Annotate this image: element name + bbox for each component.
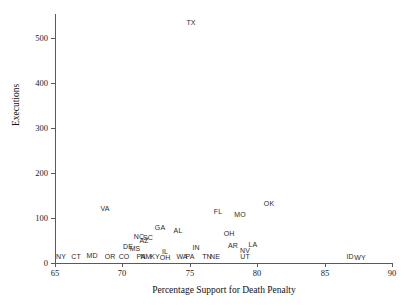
- y-tick-label-500: 500: [28, 33, 48, 43]
- data-point-wy: WY: [354, 254, 365, 261]
- scatter-chart: 65 70 75 80 85 90 0 100 200 300 400 500 …: [0, 0, 411, 306]
- data-point-al: AL: [174, 227, 183, 234]
- data-point-ga: GA: [155, 224, 165, 231]
- data-point-oh-zero: OH: [160, 254, 171, 261]
- x-tick-label-65: 65: [51, 268, 60, 278]
- x-tick-70: [122, 263, 123, 267]
- x-tick-label-70: 70: [118, 268, 127, 278]
- x-tick-label-75: 75: [186, 268, 195, 278]
- data-point-oh: OH: [224, 230, 235, 237]
- y-tick-label-300: 300: [28, 123, 48, 133]
- y-tick-label-100: 100: [28, 213, 48, 223]
- data-point-pa-zero: PA: [185, 253, 194, 260]
- y-tick-300: [51, 128, 55, 129]
- y-axis-line: [55, 14, 56, 263]
- data-point-ar: AR: [228, 242, 238, 249]
- x-tick-label-85: 85: [321, 268, 330, 278]
- data-point-fl: FL: [214, 208, 222, 215]
- y-tick-200: [51, 173, 55, 174]
- data-point-va: VA: [100, 205, 109, 212]
- x-tick-90: [392, 263, 393, 267]
- x-tick-65: [55, 263, 56, 267]
- data-point-or: OR: [105, 253, 116, 260]
- x-tick-80: [257, 263, 258, 267]
- y-tick-label-200: 200: [28, 168, 48, 178]
- x-axis-line: [55, 263, 393, 264]
- data-point-ky: KY: [150, 253, 160, 260]
- y-tick-label-0: 0: [28, 258, 48, 268]
- data-point-md: MD: [86, 252, 97, 259]
- x-tick-75: [190, 263, 191, 267]
- data-point-co: CO: [119, 253, 130, 260]
- data-point-ny: NY: [56, 253, 66, 260]
- x-tick-label-80: 80: [253, 268, 262, 278]
- x-tick-85: [325, 263, 326, 267]
- data-point-tx: TX: [186, 19, 195, 26]
- data-point-ut: UT: [240, 253, 250, 260]
- data-point-in: IN: [192, 244, 199, 251]
- y-tick-100: [51, 218, 55, 219]
- y-tick-0: [51, 263, 55, 264]
- data-point-id: ID: [346, 253, 353, 260]
- y-tick-label-400: 400: [28, 78, 48, 88]
- data-point-ms: MS: [130, 245, 141, 252]
- data-point-ct: CT: [71, 253, 81, 260]
- data-point-ne: NE: [210, 253, 220, 260]
- x-axis-title: Percentage Support for Death Penalty: [55, 285, 393, 295]
- x-tick-label-90: 90: [388, 268, 397, 278]
- data-point-az: AZ: [139, 237, 148, 244]
- y-tick-400: [51, 83, 55, 84]
- y-axis-title: Executions: [11, 65, 21, 145]
- data-point-ok: OK: [264, 200, 274, 207]
- y-tick-500: [51, 38, 55, 39]
- data-point-mo: MO: [234, 211, 245, 218]
